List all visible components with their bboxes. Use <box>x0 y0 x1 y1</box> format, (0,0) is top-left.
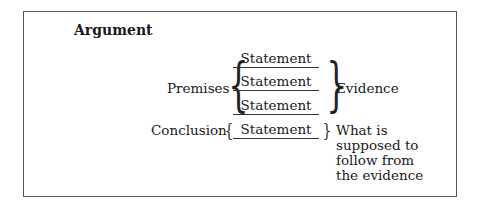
premises-annotation: Evidence <box>336 80 399 96</box>
conclusion-annotation-line: What is <box>336 123 423 138</box>
premise-statement-3: Statement <box>233 97 319 115</box>
premises-label: Premises <box>167 80 230 96</box>
conclusion-label: Conclusion <box>151 122 227 138</box>
conclusion-annotation-line: the evidence <box>336 168 423 183</box>
conclusion-annotation: What is supposed to follow from the evid… <box>336 123 423 183</box>
diagram-title: Argument <box>74 22 153 38</box>
premise-statement-1: Statement <box>233 50 319 68</box>
premise-statement-2: Statement <box>233 73 319 91</box>
conclusion-statement: Statement <box>233 121 319 139</box>
conclusion-annotation-line: supposed to <box>336 138 423 153</box>
conclusion-left-brace: { <box>225 121 233 140</box>
conclusion-right-brace: } <box>323 121 331 140</box>
conclusion-annotation-line: follow from <box>336 153 423 168</box>
